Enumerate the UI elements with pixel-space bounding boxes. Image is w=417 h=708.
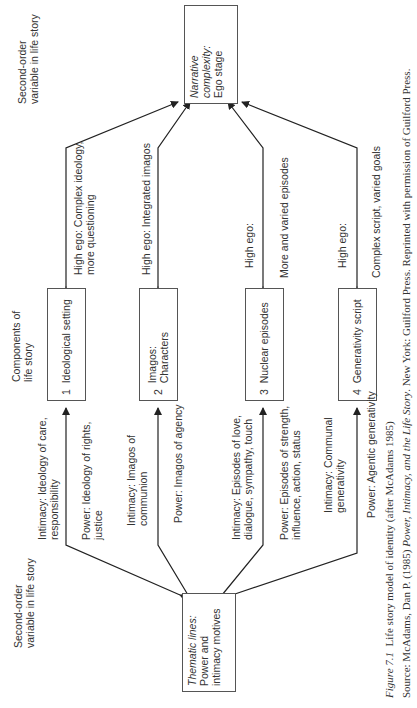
- rotated-figure-page: Narrative complexity: Ego stage Thematic…: [0, 0, 417, 708]
- component-number: 1: [60, 389, 72, 395]
- component-box-generativity-script: 4 Generativity script: [338, 288, 377, 401]
- component-box-imagos: 2 Imagos: Characters: [139, 288, 178, 401]
- source-title: Power, Intimacy, and the Life Story: [400, 392, 412, 547]
- narrative-complexity-box: Narrative complexity: Ego stage: [184, 5, 238, 104]
- high-ego-ideology-label: High ego: Complex ideology, more questio…: [72, 142, 96, 275]
- high-ego-imagos-label: High ego: Integrated imagos: [140, 143, 152, 275]
- component-number: 3: [258, 389, 270, 395]
- intimacy-ideology-label: Intimacy: Ideology of care, responsibili…: [36, 417, 60, 540]
- arrow-imagos-to-narrative: [158, 102, 190, 287]
- intimacy-imagos-label: Intimacy: Imagos of communion: [125, 435, 149, 526]
- complex-script-label: Complex script, varied goals: [370, 146, 382, 278]
- top-second-order-label: Second-order variable in life story: [16, 14, 40, 104]
- source-suffix: . New York: Guilford Press. Reprinted wi…: [400, 69, 412, 392]
- varied-episodes-label: More and varied episodes: [278, 157, 290, 278]
- thematic-line-3: intimacy motives: [210, 599, 222, 686]
- source-prefix: Source: McAdams, Dan P. (1985): [400, 547, 412, 698]
- narrative-ego-stage: Ego stage: [212, 11, 224, 98]
- figure-caption-text: Life story model of identity (after McAd…: [383, 421, 395, 646]
- component-label: Ideological setting: [60, 299, 72, 383]
- bottom-second-order-label: Second-order variable in life story: [12, 558, 36, 648]
- intimacy-episodes-label: Intimacy: Episodes of love, dialogue, sy…: [230, 415, 254, 540]
- power-ideology-label: Power: Ideology of rights, justice: [80, 422, 104, 540]
- component-label: Imagos: Characters: [146, 332, 174, 383]
- intimacy-generativity-label: Intimacy: Communal generativity: [322, 417, 346, 513]
- high-ego-generativity-label: High ego:: [336, 223, 348, 268]
- figure-label: Figure 7.1: [383, 652, 395, 698]
- component-box-nuclear-episodes: 3 Nuclear episodes: [245, 288, 284, 401]
- narrative-title: Narrative: [188, 11, 200, 98]
- figure-source: Source: McAdams, Dan P. (1985) Power, In…: [400, 69, 412, 698]
- power-imagos-label: Power: Imagos of agency: [172, 405, 184, 523]
- power-episodes-label: Power: Episodes of strength, influence, …: [278, 406, 302, 540]
- narrative-subtitle: complexity:: [200, 11, 212, 98]
- components-row-label: Components of life story: [10, 311, 34, 382]
- thematic-line-2: Power and: [198, 599, 210, 686]
- component-label: Generativity script: [351, 299, 363, 383]
- component-number: 4: [351, 389, 363, 395]
- high-ego-nuclear-label: High ego:: [243, 223, 255, 268]
- figure-caption: Figure 7.1 Life story model of identity …: [383, 421, 395, 698]
- thematic-title: Thematic lines:: [186, 599, 198, 686]
- component-box-ideological-setting: 1 Ideological setting: [47, 288, 86, 401]
- component-number: 2: [146, 389, 174, 395]
- component-label: Nuclear episodes: [258, 302, 270, 383]
- thematic-lines-box: Thematic lines: Power and intimacy motiv…: [182, 593, 236, 692]
- power-generativity-label: Power: Agentic generativity: [365, 391, 377, 518]
